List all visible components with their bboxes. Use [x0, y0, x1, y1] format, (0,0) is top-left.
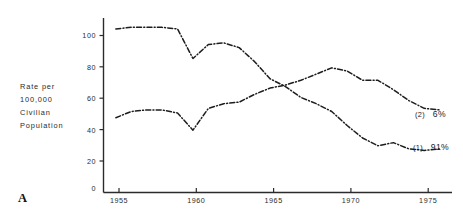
x-tick-label-1960: 1960	[187, 196, 205, 205]
x-tick-label-1965: 1965	[264, 196, 282, 205]
y-axis-tick-labels: 100 80 60 40 20 0	[82, 31, 96, 193]
y-tick-label-80: 80	[87, 63, 96, 72]
series-label-rising: (2) 6%	[415, 109, 446, 119]
series-label-declining-group: (1) 91%	[413, 142, 449, 152]
y-tick-label-60: 60	[87, 94, 96, 103]
y-axis-label: Rate per 100,000 Civilian Population	[20, 82, 63, 130]
line-chart: 100 80 60 40 20 0 1955 1960 1965 1970 19…	[0, 0, 463, 221]
panel-letter: A	[18, 191, 27, 205]
y-tick-label-20: 20	[87, 157, 96, 166]
y-axis-label-line-2: 100,000	[20, 95, 53, 104]
series-line-rising	[116, 68, 440, 130]
y-axis-label-line-1: Rate per	[20, 82, 55, 91]
y-tick-label-40: 40	[87, 126, 96, 135]
x-tick-label-1955: 1955	[110, 196, 128, 205]
series-label-rising-id: (2)	[415, 110, 425, 119]
series-label-declining: (1) 91%	[413, 142, 449, 152]
series-label-declining-id: (1)	[413, 143, 423, 152]
series-label-declining-pct: 91%	[431, 142, 449, 152]
y-axis-label-line-4: Population	[20, 121, 63, 130]
x-axis-tick-labels: 1955 1960 1965 1970 1975	[110, 196, 437, 205]
x-tick-label-1975: 1975	[419, 196, 437, 205]
series-label-rising-group: (2) 6%	[415, 109, 446, 119]
figure-panel: 100 80 60 40 20 0 1955 1960 1965 1970 19…	[0, 0, 463, 221]
y-axis-label-line-3: Civilian	[20, 108, 51, 117]
series-label-rising-pct: 6%	[433, 109, 446, 119]
y-tick-label-0: 0	[91, 184, 96, 193]
x-tick-label-1970: 1970	[342, 196, 360, 205]
y-tick-label-100: 100	[82, 31, 96, 40]
